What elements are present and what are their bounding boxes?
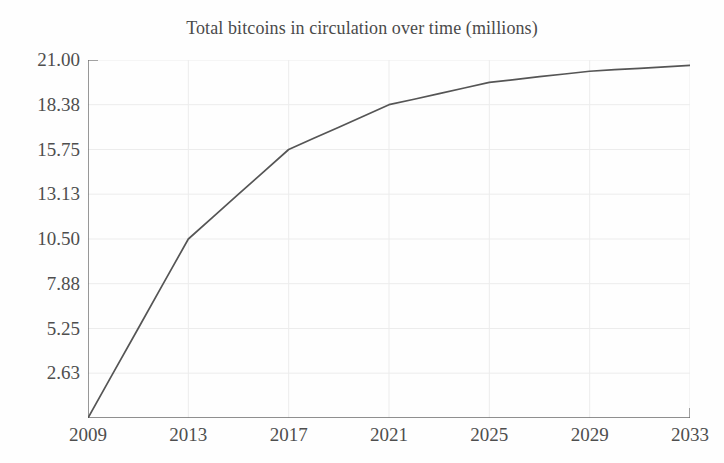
x-axis-tick-label: 2009 xyxy=(69,424,107,446)
x-axis-tick-label: 2025 xyxy=(470,424,508,446)
x-axis-labels: 2009201320172021202520292033 xyxy=(0,0,724,463)
x-axis-tick-label: 2017 xyxy=(270,424,308,446)
x-axis-tick-label: 2021 xyxy=(370,424,408,446)
x-axis-tick-label: 2013 xyxy=(169,424,207,446)
x-axis-tick-label: 2029 xyxy=(571,424,609,446)
chart-page: Total bitcoins in circulation over time … xyxy=(0,0,724,463)
x-axis-tick-label: 2033 xyxy=(671,424,709,446)
